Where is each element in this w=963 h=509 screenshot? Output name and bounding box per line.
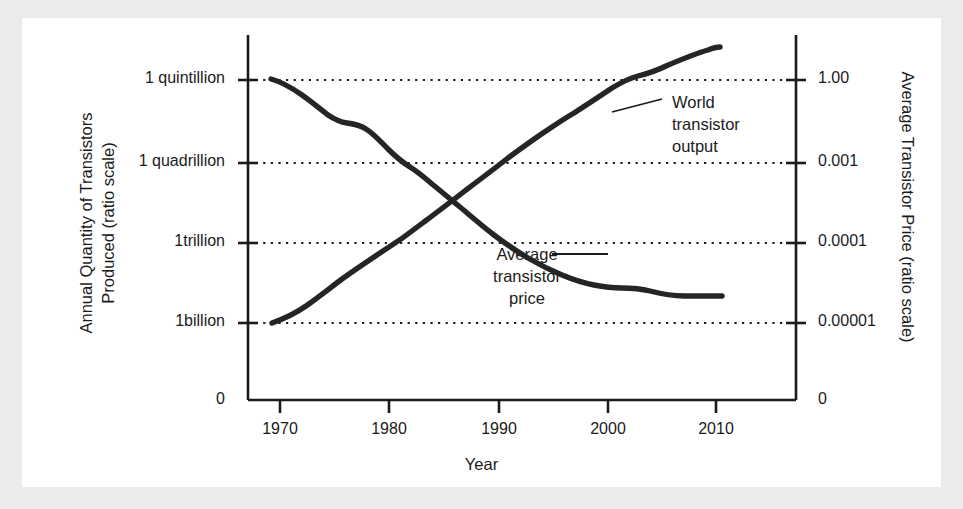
chart-figure: Annual Quantity of Transistors Produced …	[0, 0, 963, 509]
y-axis-left-spine	[238, 35, 258, 400]
series-average-transistor-price	[271, 79, 722, 296]
figure-page: Annual Quantity of Transistors Produced …	[0, 0, 963, 509]
leader-line-output	[612, 99, 662, 112]
plot-svg	[0, 0, 963, 509]
x-axis-spine	[248, 400, 796, 413]
y-axis-right-spine	[786, 35, 806, 400]
series-world-transistor-output	[272, 47, 720, 323]
